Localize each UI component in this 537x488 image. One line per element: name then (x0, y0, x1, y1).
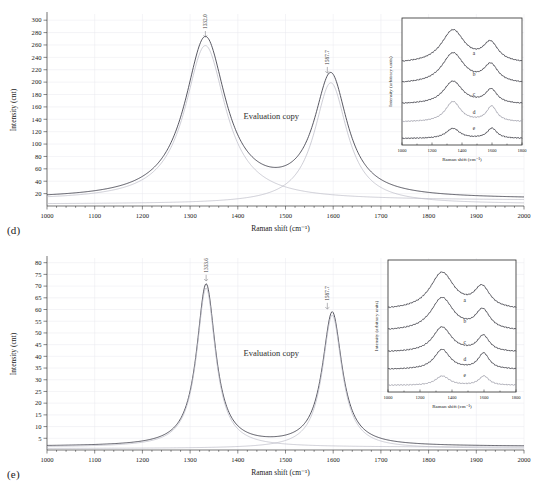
y-tick-label: 140 (32, 116, 43, 123)
x-tick-label: 1400 (231, 212, 245, 219)
x-axis-title: Raman shift (cm⁻¹) (251, 468, 310, 477)
evaluation-copy-watermark: Evaluation copy (243, 111, 299, 121)
inset-x-tick-label: 1400 (447, 395, 457, 400)
inset-y-axis-title: Intensity (arbitrary units) (388, 56, 393, 107)
y-tick-label: 20 (35, 399, 42, 406)
y-tick-label: 80 (35, 259, 42, 266)
x-tick-label: 1500 (279, 456, 293, 463)
inset-x-tick-label: 1200 (427, 148, 437, 153)
y-tick-label: 60 (35, 306, 42, 313)
y-tick-label: 30 (35, 376, 42, 383)
figure-panel-d: 1000110012001300140015001600170018001900… (0, 0, 537, 244)
y-tick-label: 220 (32, 66, 43, 73)
x-tick-label: 1300 (184, 456, 198, 463)
y-tick-label: 45 (35, 341, 42, 348)
x-tick-label: 1200 (136, 212, 150, 219)
panel-label-e: (e) (7, 468, 20, 480)
y-tick-label: 10 (35, 423, 42, 430)
inset-curve-label-d: d (473, 109, 476, 115)
peak-position-label: 1333.6 (203, 258, 209, 273)
figure-panel-e: 1000110012001300140015001600170018001900… (0, 244, 537, 488)
inset-x-tick-label: 1200 (415, 395, 425, 400)
y-tick-label: 40 (35, 353, 42, 360)
y-tick-label: 50 (35, 329, 42, 336)
inset-x-tick-label: 1400 (457, 148, 467, 153)
y-tick-label: 15 (35, 411, 42, 418)
x-tick-label: 1600 (327, 456, 341, 463)
y-tick-label: 160 (32, 103, 43, 110)
x-tick-label: 1700 (374, 456, 388, 463)
x-tick-label: 2000 (517, 212, 531, 219)
y-tick-label: 55 (35, 318, 42, 325)
inset-x-tick-label: 1800 (517, 148, 527, 153)
y-tick-label: 300 (32, 16, 43, 23)
peak-position-label: 1587.7 (324, 50, 330, 65)
inset-x-tick-label: 1600 (479, 395, 489, 400)
y-tick-label: 80 (35, 153, 42, 160)
x-tick-label: 1000 (40, 212, 54, 219)
evaluation-copy-watermark: Evaluation copy (243, 348, 299, 358)
y-tick-label: 100 (32, 140, 43, 147)
y-tick-label: 60 (35, 165, 42, 172)
y-tick-label: 5 (38, 435, 42, 442)
x-tick-label: 1500 (279, 212, 293, 219)
x-tick-label: 1800 (422, 456, 436, 463)
peak-position-label: 1332.0 (202, 14, 208, 29)
x-axis-title: Raman shift (cm⁻¹) (251, 224, 310, 233)
x-tick-label: 2000 (517, 456, 531, 463)
x-tick-label: 1000 (40, 456, 54, 463)
y-tick-label: 280 (32, 29, 43, 36)
inset-x-tick-label: 1600 (487, 148, 497, 153)
raman-plot-d: 1000110012001300140015001600170018001900… (0, 0, 537, 244)
inset-x-axis-title: Raman shift (cm⁻¹) (432, 404, 472, 409)
inset-chart: 10001200140016001800abcdeRaman shift (cm… (388, 18, 527, 162)
y-tick-label: 70 (35, 282, 42, 289)
y-axis-title: Intensity (cnt) (9, 88, 18, 131)
inset-y-axis-title: Intensity (arbitrary units) (374, 301, 379, 352)
inset-x-axis-title: Raman shift (cm⁻¹) (442, 157, 482, 162)
inset-curve-label-b: b (473, 71, 476, 77)
y-tick-label: 40 (35, 178, 42, 185)
inset-curve-label-d: d (463, 356, 466, 362)
y-tick-label: 35 (35, 364, 42, 371)
inset-x-tick-label: 1000 (383, 395, 393, 400)
y-tick-label: 120 (32, 128, 43, 135)
x-tick-label: 1300 (184, 212, 198, 219)
y-tick-label: 240 (32, 54, 43, 61)
inset-x-tick-label: 1800 (511, 395, 521, 400)
x-tick-label: 1400 (231, 456, 245, 463)
x-tick-label: 1900 (470, 456, 484, 463)
inset-chart: 10001200140016001800abcdeRaman shift (cm… (374, 260, 521, 409)
y-axis-title: Intensity (cnt) (9, 332, 18, 375)
x-tick-label: 1100 (88, 456, 102, 463)
x-tick-label: 1900 (470, 212, 484, 219)
y-tick-label: 200 (32, 78, 43, 85)
y-tick-label: 75 (35, 271, 42, 278)
inset-curve-label-b: b (463, 318, 466, 324)
panel-label-d: (d) (7, 224, 20, 236)
x-tick-label: 1100 (88, 212, 102, 219)
y-tick-label: 25 (35, 388, 42, 395)
x-tick-label: 1200 (136, 456, 150, 463)
inset-x-tick-label: 1000 (397, 148, 407, 153)
x-tick-label: 1600 (327, 212, 341, 219)
y-tick-label: 180 (32, 91, 43, 98)
y-tick-label: 65 (35, 294, 42, 301)
peak-position-label: 1587.7 (324, 286, 330, 301)
x-tick-label: 1800 (422, 212, 436, 219)
y-tick-label: 260 (32, 41, 43, 48)
x-tick-label: 1700 (374, 212, 388, 219)
raman-plot-e: 1000110012001300140015001600170018001900… (0, 244, 537, 488)
y-tick-label: 20 (35, 190, 42, 197)
